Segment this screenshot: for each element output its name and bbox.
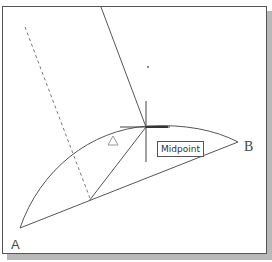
point-label-b: B — [244, 140, 253, 154]
triangle-marker-icon — [108, 136, 118, 145]
point-label-a: A — [11, 238, 20, 251]
chord-line-ab[interactable] — [20, 142, 238, 228]
grid-dot-icon — [147, 66, 149, 68]
drawing-canvas[interactable] — [0, 0, 272, 262]
snap-tooltip: Midpoint — [157, 141, 204, 157]
construction-line-top[interactable] — [101, 7, 146, 127]
arc-ab[interactable] — [20, 126, 238, 228]
cad-viewport[interactable]: A B Midpoint — [0, 0, 272, 262]
dashed-construction-line[interactable] — [25, 27, 91, 201]
